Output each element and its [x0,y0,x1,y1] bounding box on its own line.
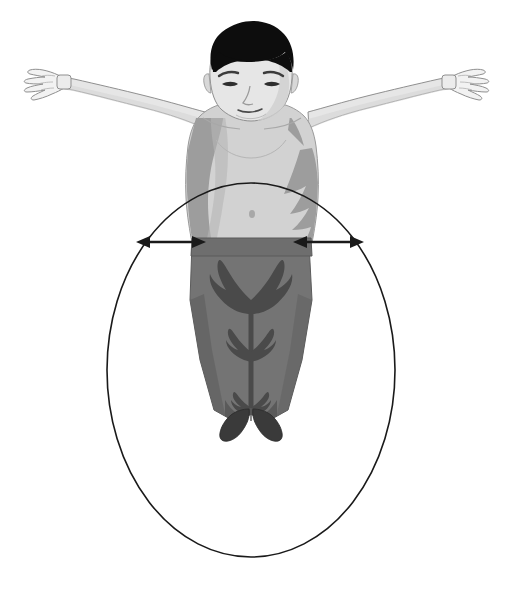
illustration-svg [0,0,513,589]
figure-canvas: Grayscale line illustration of a man wit… [0,0,513,589]
torso [186,104,319,243]
head [204,21,299,121]
